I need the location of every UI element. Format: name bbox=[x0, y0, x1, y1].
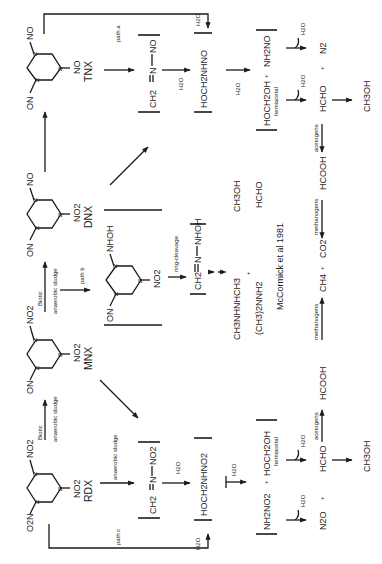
a-imine-no: NO bbox=[148, 40, 158, 54]
hydroxylamino-nhoh: NHOH bbox=[105, 226, 115, 253]
b-ch32nnh2: (CH3)2NNH2 bbox=[254, 281, 264, 335]
dnx-to-path-a-diagonal-arrow bbox=[110, 147, 148, 185]
tnx-label: TNX bbox=[82, 61, 94, 82]
a-imine-ch2: CH2 bbox=[148, 90, 158, 108]
a-h2o-label: H2O bbox=[178, 77, 184, 90]
ch4: CH4 bbox=[318, 274, 328, 292]
a-h2o-right: H2O bbox=[300, 22, 306, 35]
b-imine-ch2: CH2 bbox=[193, 272, 203, 290]
b-plus: + bbox=[245, 271, 251, 275]
co2: CO2 bbox=[318, 239, 328, 258]
b-imine-n: N bbox=[193, 257, 203, 264]
c-h2o-label: H2O bbox=[175, 461, 181, 474]
mnx-no2-right: NO2 bbox=[72, 343, 82, 362]
c-nh2no2: NH2NO2 bbox=[262, 493, 272, 530]
c-imine-no2: NO2 bbox=[148, 446, 158, 465]
dnx-ring: N N N bbox=[27, 188, 70, 240]
b-ch3oh: CH3OH bbox=[232, 180, 242, 212]
anaerobic-sludge-c-label: anaerobic sludge bbox=[112, 434, 118, 480]
c-hoch2nhno2: HOCH2NHNO2 bbox=[199, 453, 209, 516]
acetogens-label-2: acetogens bbox=[313, 412, 319, 440]
a-nh2no: NH2NO bbox=[262, 35, 272, 67]
mnx-no2-top: NO2 bbox=[25, 305, 35, 324]
methanogens-label-1: methanogens bbox=[313, 199, 319, 235]
c-h2o-left: H2O bbox=[300, 494, 306, 507]
path-a-label: path a bbox=[115, 25, 121, 42]
tnx-on-bottom: ON bbox=[25, 97, 35, 111]
b-ch3nhnhch3: CH3NHNHCH3 bbox=[232, 278, 242, 340]
a-plus: + bbox=[263, 74, 269, 78]
hydroxylamino-no2: NO2 bbox=[152, 269, 162, 288]
c-h2o-2-label: H2O bbox=[231, 463, 237, 476]
rdx-ring: N N N bbox=[27, 460, 70, 514]
a-hemiacetal: HOCH2OH bbox=[262, 81, 272, 126]
a-ch3oh: CH3OH bbox=[362, 80, 372, 112]
tnx-no-top: NO bbox=[25, 27, 35, 41]
b-hcho: HCHO bbox=[254, 182, 264, 209]
b-citation: McCormick et al 1981 bbox=[275, 223, 285, 310]
sludge-label-2: anaerobic sludge bbox=[52, 268, 58, 314]
hydroxylamino-on: ON bbox=[105, 309, 115, 323]
svg-text:N: N bbox=[58, 486, 62, 492]
a-hemiacetal-label: hemiacetal bbox=[273, 87, 279, 116]
c-products-plus: + bbox=[319, 496, 325, 500]
a-hcooh: HCOOH bbox=[318, 157, 328, 191]
c-imine-ch2: CH2 bbox=[148, 496, 158, 514]
rdx-o2n-bottom: O2N bbox=[25, 513, 35, 532]
mnx-to-path-c-diagonal-arrow bbox=[100, 380, 138, 418]
svg-text:N: N bbox=[58, 352, 62, 358]
c-hemiacetal-label: hemiacetal bbox=[273, 437, 279, 466]
path-a-top-h2o: H2O bbox=[195, 13, 201, 26]
a-hcho: HCHO bbox=[318, 86, 328, 113]
a-h2o-2-label: H2O bbox=[235, 82, 241, 95]
c-hemiacetal: HOCH2OH bbox=[262, 431, 272, 476]
tnx-no-right: NO bbox=[72, 61, 82, 75]
rdx-degradation-pathway-diagram: N N N NO ON NO TNX N N N NO ON NO2 DNX N… bbox=[0, 0, 382, 564]
rdx-label: RDX bbox=[82, 480, 94, 502]
b-imine-nhoh: NHOH bbox=[193, 219, 203, 246]
tnx-ring: N N N bbox=[27, 42, 70, 93]
dnx-no2-right: NO2 bbox=[72, 203, 82, 222]
path-c-bottom-h2o: H2O bbox=[195, 537, 201, 550]
svg-text:N: N bbox=[138, 278, 142, 284]
svg-text:N: N bbox=[58, 212, 62, 218]
dnx-no-top: NO bbox=[25, 173, 35, 187]
mnx-ring: N N N bbox=[27, 326, 70, 380]
path-c-label: path c bbox=[115, 529, 121, 545]
c-imine-n: N bbox=[148, 477, 158, 484]
c-hcho: HCHO bbox=[318, 446, 328, 473]
c-ch3oh: CH3OH bbox=[362, 440, 372, 472]
sludge-label-1: anaerobic sludge bbox=[52, 396, 58, 442]
ring-cleavage-label: ring-cleavage bbox=[173, 235, 179, 272]
c-plus: + bbox=[263, 480, 269, 484]
c-n2o: N2O bbox=[318, 511, 328, 530]
biotic-label-2: Biotic bbox=[37, 291, 43, 306]
a-h2o-left: H2O bbox=[300, 74, 306, 87]
c-hcooh: HCOOH bbox=[318, 367, 328, 401]
methanogens-label-2: methanogens bbox=[313, 304, 319, 340]
path-b-label: path b bbox=[79, 267, 85, 284]
a-n2: N2 bbox=[318, 42, 328, 54]
path-c-line bbox=[49, 524, 208, 548]
hydroxylamino-ring: N N N bbox=[106, 254, 150, 306]
a-imine-n: N bbox=[148, 68, 158, 75]
svg-text:N: N bbox=[58, 66, 62, 72]
biotic-label-1: Biotic bbox=[37, 425, 43, 440]
path-a-line bbox=[44, 14, 208, 34]
mnx-label: MNX bbox=[82, 347, 94, 370]
rdx-no2-right: NO2 bbox=[72, 479, 82, 498]
c-h2o-right: H2O bbox=[300, 434, 306, 447]
a-hoch2nhno: HOCH2NHNO bbox=[199, 50, 209, 108]
dnx-label: DNX bbox=[82, 206, 94, 228]
mid-plus: + bbox=[319, 266, 325, 270]
rdx-no2-top: NO2 bbox=[25, 439, 35, 458]
mnx-on-bottom: ON bbox=[25, 381, 35, 395]
a-products-plus: + bbox=[319, 66, 325, 70]
dnx-on-bottom: ON bbox=[25, 244, 35, 258]
acetogens-label-1: acetogens bbox=[313, 124, 319, 152]
